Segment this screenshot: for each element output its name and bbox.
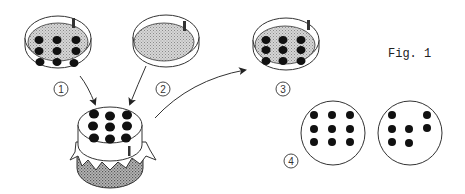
colony-grid-1 xyxy=(35,36,81,67)
svg-text:2: 2 xyxy=(160,84,166,95)
velvet-stamp-block xyxy=(70,107,156,188)
figure-label: Fig. 1 xyxy=(388,47,431,61)
step-label-1: 1 xyxy=(54,82,68,96)
step-label-3: 3 xyxy=(276,82,290,96)
plate-4a-full xyxy=(301,101,365,165)
plate-4b-partial xyxy=(378,101,442,165)
svg-text:1: 1 xyxy=(58,84,64,95)
colony-imprint xyxy=(88,110,132,144)
petri-dish-1 xyxy=(25,16,91,68)
svg-text:4: 4 xyxy=(288,156,294,167)
colony-grid-3 xyxy=(262,36,306,65)
step-label-2: 2 xyxy=(156,82,170,96)
step-label-4: 4 xyxy=(284,154,298,168)
petri-dish-3 xyxy=(253,18,319,70)
svg-text:3: 3 xyxy=(280,84,286,95)
arrow-2-to-stamp xyxy=(130,66,146,104)
arrow-1-to-stamp xyxy=(80,76,95,104)
petri-dish-2 xyxy=(133,15,199,67)
